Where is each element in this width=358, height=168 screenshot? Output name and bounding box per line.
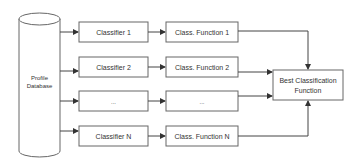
database-label-line1: Profile — [31, 75, 49, 81]
classifier-box-n: Classifier N — [79, 126, 148, 146]
function-box-ellipsis: ... — [166, 91, 238, 111]
function-box-1: Class. Function 1 — [166, 22, 238, 42]
classifier-box-ellipsis: ... — [79, 91, 148, 111]
function-label: Class. Function 1 — [175, 29, 229, 36]
classifier-to-function-arrows — [148, 32, 165, 136]
best-label-line2: Function — [295, 87, 322, 94]
best-label-line1: Best Classification — [279, 77, 336, 84]
classifier-box-2: Classifier 2 — [79, 57, 148, 77]
function-box-2: Class. Function 2 — [166, 57, 238, 77]
classifier-label: ... — [111, 99, 116, 105]
profile-database-cylinder: Profile Database — [19, 13, 60, 157]
classifier-label: Classifier 2 — [96, 64, 131, 71]
classifier-box-1: Classifier 1 — [79, 22, 148, 42]
best-classification-function-box: Best Classification Function — [273, 70, 343, 100]
db-to-classifier-arrows — [60, 32, 78, 131]
classifier-label: Classifier N — [96, 133, 132, 140]
database-label-line2: Database — [27, 83, 53, 89]
classifier-label: Classifier 1 — [96, 29, 131, 36]
function-label: Class. Function 2 — [175, 64, 229, 71]
function-label: ... — [199, 99, 204, 105]
function-label: Class. Function N — [174, 133, 229, 140]
function-box-n: Class. Function N — [166, 126, 238, 146]
diagram-canvas: Profile Database Classifier 1 Classifier… — [0, 0, 358, 168]
